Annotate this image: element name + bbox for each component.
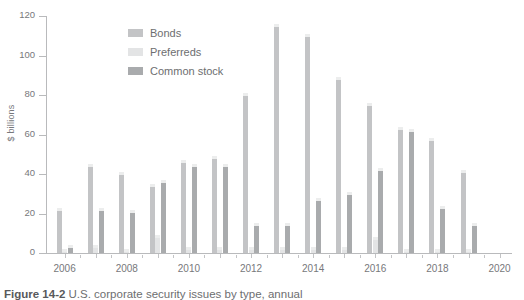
x-tick-minor [391, 255, 392, 258]
x-tick [313, 254, 314, 258]
y-tick: 0 [39, 253, 46, 254]
x-tick [127, 254, 128, 258]
bar-bonds-2012 [243, 93, 248, 253]
bar-cap [378, 168, 383, 171]
x-tick [251, 254, 252, 258]
x-tick [220, 254, 221, 258]
x-tick-label: 2020 [488, 263, 510, 274]
x-tick [406, 254, 407, 258]
bar-preferreds-2010 [186, 247, 191, 253]
bar-cap [373, 237, 378, 240]
legend-swatch-bonds [128, 29, 143, 37]
bar-cap [440, 206, 445, 209]
bar-cap [217, 247, 222, 250]
legend-item-bonds: Bonds [128, 24, 288, 41]
bar-common-stock-2017 [409, 129, 414, 253]
y-tick: 40 [39, 174, 46, 175]
x-tick-minor [142, 255, 143, 258]
bar-cap [305, 34, 310, 37]
x-tick-label: 2018 [426, 263, 448, 274]
bar-common-stock-2013 [285, 223, 290, 253]
legend-item-common: Common stock [128, 62, 288, 79]
bar-cap [88, 164, 93, 167]
x-tick-minor [484, 255, 485, 258]
x-tick [500, 254, 501, 258]
bar-cap [93, 245, 98, 248]
bar-cap [181, 160, 186, 163]
bar-bonds-2007 [88, 164, 93, 253]
bar-cap [398, 127, 403, 130]
bar-cap [435, 249, 440, 252]
bar-preferreds-2019 [466, 249, 471, 253]
y-tick: 120 [39, 16, 46, 17]
bar-common-stock-2016 [378, 168, 383, 253]
bar-cap [461, 170, 466, 173]
bar-cap [342, 247, 347, 250]
x-tick-minor [80, 255, 81, 258]
bar-cap [119, 172, 124, 175]
bar-cap [186, 247, 191, 250]
x-tick-minor [298, 255, 299, 258]
x-tick-label: 2014 [302, 263, 324, 274]
x-tick-minor [111, 255, 112, 258]
bar-preferreds-2008 [124, 249, 129, 253]
x-tick [437, 254, 438, 258]
bar-cap [223, 164, 228, 167]
figure-caption-text: U.S. corporate security issues by type, … [69, 288, 303, 300]
bar-cap [254, 223, 259, 226]
x-tick-minor [329, 255, 330, 258]
bar-preferreds-2014 [311, 247, 316, 253]
bar-bonds-2014 [305, 34, 310, 253]
x-tick-minor [204, 255, 205, 258]
bar-bonds-2010 [181, 160, 186, 253]
bar-preferreds-2006 [62, 249, 67, 253]
bar-cap [130, 210, 135, 213]
x-tick [344, 254, 345, 258]
x-tick-minor [422, 255, 423, 258]
bar-common-stock-2008 [130, 210, 135, 253]
y-tick-label: 120 [19, 9, 35, 20]
x-tick-label: 2012 [240, 263, 262, 274]
y-tick-label: 20 [24, 207, 35, 218]
x-tick [189, 254, 190, 258]
x-tick-minor [453, 255, 454, 258]
x-tick [158, 254, 159, 258]
bar-cap [57, 208, 62, 211]
legend-label-common: Common stock [150, 65, 223, 77]
figure-caption: Figure 14-2 U.S. corporate security issu… [4, 288, 520, 300]
bar-cap [124, 249, 129, 252]
legend-item-preferreds: Preferreds [128, 43, 288, 60]
bar-cap [99, 208, 104, 211]
bar-preferreds-2009 [155, 235, 160, 253]
legend-label-bonds: Bonds [150, 27, 181, 39]
bar-bonds-2008 [119, 172, 124, 253]
y-tick-label: 100 [19, 49, 35, 60]
bar-common-stock-2010 [192, 164, 197, 253]
bar-cap [192, 164, 197, 167]
y-axis-label: $ billions [6, 88, 16, 158]
bar-common-stock-2018 [440, 206, 445, 253]
chart-legend: BondsPreferredsCommon stock [128, 24, 288, 81]
x-tick [65, 254, 66, 258]
y-tick: 20 [39, 214, 46, 215]
bar-cap [347, 192, 352, 195]
y-axis-line [46, 16, 47, 254]
bar-cap [243, 93, 248, 96]
bar-cap [155, 235, 160, 238]
figure-caption-number: Figure 14-2 [4, 288, 65, 300]
y-tick-label: 80 [24, 88, 35, 99]
bar-cap [161, 180, 166, 183]
bar-preferreds-2011 [217, 247, 222, 253]
legend-swatch-common [128, 67, 143, 75]
y-tick: 60 [39, 135, 46, 136]
y-tick-label: 0 [30, 246, 35, 257]
bar-common-stock-2015 [347, 192, 352, 253]
bar-bonds-2017 [398, 127, 403, 253]
bar-common-stock-2007 [99, 208, 104, 253]
x-axis-line [46, 253, 512, 254]
x-tick-label: 2006 [54, 263, 76, 274]
bar-cap [409, 129, 414, 132]
legend-label-preferreds: Preferreds [150, 46, 201, 58]
bar-cap [472, 223, 477, 226]
bar-common-stock-2014 [316, 198, 321, 253]
